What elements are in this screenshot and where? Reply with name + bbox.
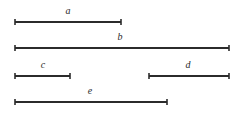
segment-b	[15, 45, 229, 51]
segment-e	[15, 99, 167, 105]
segment-lines-layer	[0, 0, 245, 114]
segment-c	[15, 73, 70, 79]
segment-diagram: abcde	[0, 0, 245, 114]
segment-d	[149, 73, 229, 79]
segment-a	[15, 19, 121, 25]
